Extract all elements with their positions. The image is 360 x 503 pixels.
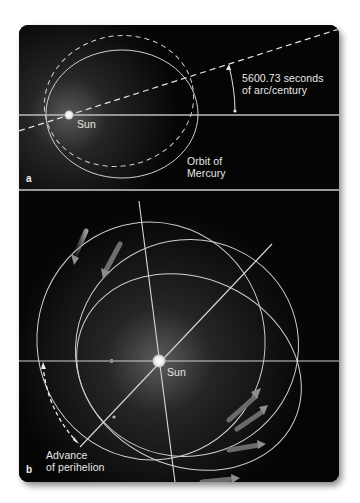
mercury-perihelion-figure: Sun 5600.73 seconds of arc/century Orbit…	[19, 25, 339, 482]
angle-label-line2: of arc/century	[242, 85, 307, 97]
advance-label-line1: Advance	[46, 450, 88, 462]
orbit-label-line1: Orbit of	[187, 156, 222, 168]
panel-separator	[19, 189, 339, 191]
orbit-label-line2: Mercury	[187, 168, 226, 180]
sun-icon-a	[65, 111, 74, 120]
sun-icon-b	[153, 355, 166, 368]
panel-a	[19, 25, 339, 189]
panel-a-letter: a	[26, 173, 32, 184]
sun-label-b: Sun	[167, 367, 186, 379]
advance-label-line2: of perihelion	[46, 462, 105, 474]
angle-label-line1: 5600.73 seconds	[242, 73, 323, 85]
panel-b	[19, 191, 339, 482]
sun-label-a: Sun	[77, 119, 96, 131]
panel-b-letter: b	[26, 464, 32, 475]
